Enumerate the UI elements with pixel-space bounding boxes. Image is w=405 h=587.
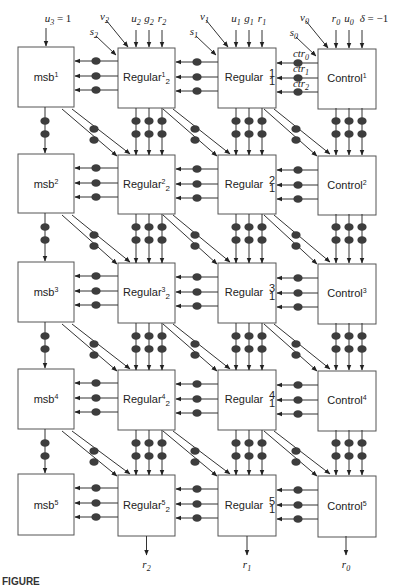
output-label: r2 [142,558,150,573]
register-dot [91,499,100,507]
register-dot [144,223,153,231]
diagonal-signal-arrow [274,324,330,369]
control-block-label: Control3 [327,287,366,299]
msb-top-input-label: u3 = 1 [45,12,72,27]
register-dot [357,236,366,244]
register-dot [190,447,199,455]
top-input-label: u0 [344,12,354,27]
diagonal-signal-arrow [62,324,117,371]
register-dot [344,130,353,138]
diagonal-signal-arrow [173,215,230,262]
regular1-block-label: Regular [225,178,264,190]
output-label: r1 [243,558,251,573]
register-dot [190,351,199,359]
diagonal-signal-arrow [72,215,130,262]
register-dot [91,379,100,387]
register-dot [157,117,166,125]
register-dot [291,447,300,455]
regular1-block-label: Regular [225,499,264,511]
register-dot [190,125,199,133]
register-dot [89,351,98,359]
register-dot [192,380,201,388]
register-dot [331,117,340,125]
register-dot [192,58,201,66]
register-dot [89,136,98,144]
top-input-label: r1 [258,12,266,27]
register-dot [291,136,300,144]
top-input-label: u2 [131,12,141,27]
register-dot [244,439,253,447]
register-dot [231,223,240,231]
register-dot [144,332,153,340]
register-dot [231,439,240,447]
diagonal-input-label: v2 [100,10,109,25]
register-dot [89,242,98,250]
register-dot [344,236,353,244]
register-dot [231,332,240,340]
diagonal-signal-arrow [173,324,230,369]
register-dot [91,484,100,492]
register-dot [231,117,240,125]
register-dot [331,223,340,231]
register-dot [190,458,199,466]
register-dot [244,117,253,125]
register-dot [157,345,166,353]
register-dot [192,302,201,310]
register-dot [89,125,98,133]
control-signal-label: ctr1 [293,62,309,77]
register-dot [344,117,353,125]
register-dot [357,332,366,340]
register-dot [192,514,201,522]
register-dot [192,485,201,493]
register-dot [244,332,253,340]
regular1-sub: 1 [269,75,275,87]
register-dot [157,236,166,244]
diagonal-input-label: s2 [90,25,98,40]
diagonal-signal-arrow [62,431,117,476]
register-dot [357,345,366,353]
register-dot [157,439,166,447]
register-dot [293,274,302,282]
regular1-sub: 1 [269,182,275,194]
register-dot [157,130,166,138]
diagonal-signal-arrow [72,324,130,369]
register-dot [91,86,100,94]
register-dot [40,452,49,460]
register-dot [131,130,140,138]
register-dot [291,242,300,250]
register-dot [192,395,201,403]
diagonal-signal-arrow [72,431,130,474]
diagonal-signal-arrow [274,215,330,262]
register-dot [40,332,49,340]
top-input-label: δ = −1 [360,12,389,24]
register-dot [91,164,100,172]
register-dot [89,340,98,348]
diagonal-input-label: v0 [300,11,309,26]
register-dot [257,452,266,460]
regular1-block-label: Regular [225,393,264,405]
register-dot [144,439,153,447]
control-block-label: Control5 [327,500,366,512]
diagonal-signal-arrow [274,431,330,474]
register-dot [131,332,140,340]
register-dot [291,125,300,133]
register-dot [257,130,266,138]
regular1-sub: 1 [269,290,275,302]
diagonal-input-label: s1 [190,25,198,40]
diagonal-signal-arrow [173,431,230,474]
register-dot [40,223,49,231]
register-dot [331,452,340,460]
register-dot [291,351,300,359]
register-dot [231,345,240,353]
register-dot [293,181,302,189]
register-dot [91,301,100,309]
register-dot [131,439,140,447]
register-dot [293,88,302,96]
register-dot [293,289,302,297]
register-dot [331,345,340,353]
figure-caption-fragment: FIGURE [2,577,40,587]
diagonal-signal-arrow [264,324,317,371]
diagonal-input-arrow [96,36,116,55]
register-dot [40,236,49,244]
